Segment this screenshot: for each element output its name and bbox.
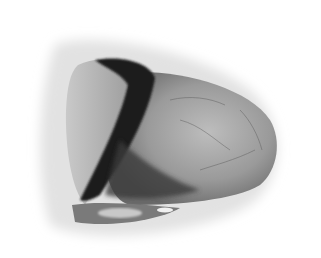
- heart-image: [0, 0, 321, 258]
- heart-rendering: [0, 0, 321, 258]
